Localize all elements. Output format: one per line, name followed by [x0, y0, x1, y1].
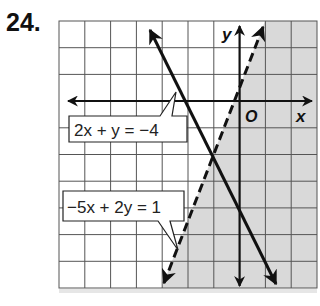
- shadow: [59, 289, 317, 293]
- x-axis-label: x: [295, 107, 307, 126]
- origin-label: O: [245, 108, 258, 125]
- solid-equation-label: 2x + y = −4: [74, 121, 159, 140]
- coordinate-graph: y x O 2x + y = −4 −5x + 2y = 1: [0, 0, 320, 306]
- callout-solid-equation: 2x + y = −4: [69, 92, 187, 142]
- y-axis-label: y: [221, 25, 233, 44]
- callout-dashed-equation: −5x + 2y = 1: [63, 191, 184, 250]
- dashed-equation-label: −5x + 2y = 1: [67, 198, 161, 217]
